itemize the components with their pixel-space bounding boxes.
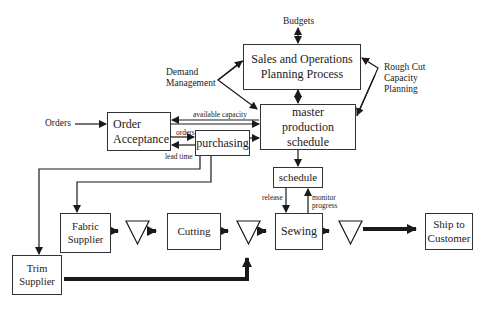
inventory-triangle-3 — [339, 221, 362, 244]
orders-input-label: Orders — [45, 118, 71, 129]
sales-operations-planning-box: Sales and Operations Planning Process — [243, 44, 361, 90]
budgets-label: Budgets — [283, 16, 314, 27]
sewing-text: Sewing — [281, 224, 317, 239]
ship-to-customer-text: Ship to Customer — [428, 218, 471, 246]
available-capacity-label: available capacity — [193, 111, 247, 120]
cutting-text: Cutting — [177, 225, 210, 239]
lead-time-label: lead time — [165, 153, 193, 162]
orders-flow-label: orders — [176, 129, 195, 138]
purchasing-text: purchasing — [196, 136, 249, 151]
inventory-triangle-1 — [126, 221, 149, 244]
master-production-schedule-box: master production schedule — [260, 104, 356, 150]
inventory-triangle-2 — [237, 221, 260, 244]
cutting-box: Cutting — [167, 213, 221, 250]
mps-text: master production schedule — [282, 105, 334, 150]
release-label: release — [262, 194, 283, 203]
trim-supplier-box: Trim Supplier — [12, 255, 62, 295]
purchasing-box: purchasing — [195, 130, 250, 156]
order-acceptance-text: Order Acceptance — [113, 117, 169, 147]
ship-to-customer-box: Ship to Customer — [425, 213, 473, 250]
demand-management-label: Demand Management — [166, 67, 216, 89]
sop-text: Sales and Operations Planning Process — [251, 52, 352, 82]
schedule-text: schedule — [279, 171, 317, 185]
trim-supplier-text: Trim Supplier — [19, 262, 55, 288]
schedule-box: schedule — [273, 167, 323, 188]
fabric-supplier-box: Fabric Supplier — [60, 213, 111, 253]
monitor-progress-label: monitor progress — [312, 194, 337, 211]
sewing-box: Sewing — [275, 213, 323, 250]
rough-cut-capacity-planning-label: Rough Cut Capacity Planning — [384, 62, 425, 95]
fabric-supplier-text: Fabric Supplier — [68, 220, 104, 246]
order-acceptance-box: Order Acceptance — [107, 112, 171, 151]
